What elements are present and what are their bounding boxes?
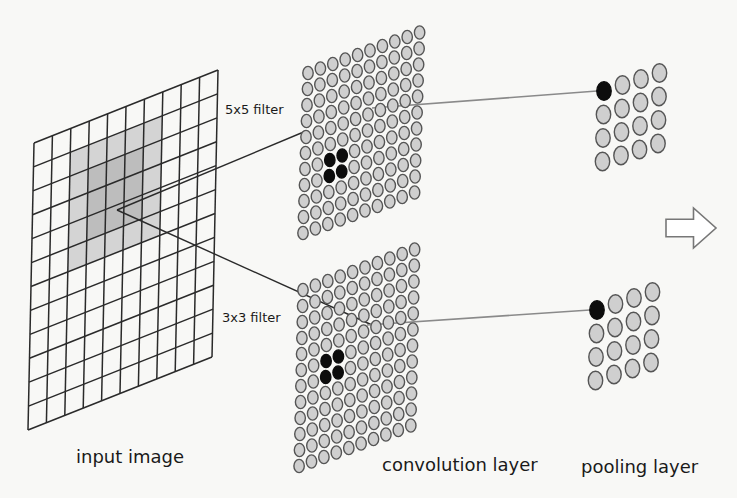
neuron (414, 26, 424, 39)
neuron (394, 375, 404, 388)
neuron (385, 252, 395, 265)
convolution-layer (294, 26, 425, 473)
neuron (296, 379, 306, 392)
neuron (302, 98, 312, 111)
neuron (360, 188, 370, 201)
neuron (297, 299, 307, 312)
neuron (363, 92, 373, 105)
neuron (397, 263, 407, 276)
neuron (328, 57, 338, 70)
neuron (297, 315, 307, 328)
neuron (390, 35, 400, 48)
neuron (589, 324, 603, 342)
neuron (344, 425, 354, 438)
neuron (377, 39, 387, 52)
neuron (323, 217, 333, 230)
neuron (339, 85, 349, 98)
neuron (335, 270, 345, 283)
neuron (347, 265, 357, 278)
neuron (372, 288, 382, 301)
neuron (369, 416, 379, 429)
neuron (326, 121, 336, 134)
neuron (361, 172, 371, 185)
neuron (615, 99, 629, 117)
active-neuron (333, 366, 343, 379)
cnn-diagram-graphic (0, 0, 737, 498)
neuron (398, 158, 408, 171)
conv-block-conv-3x3 (294, 243, 420, 473)
neuron (397, 190, 407, 203)
neuron (321, 338, 331, 351)
neuron (377, 55, 387, 68)
neuron (384, 284, 394, 297)
neuron (634, 70, 648, 88)
neuron (399, 142, 409, 155)
neuron (349, 144, 359, 157)
filter-3x3-label: 3x3 filter (222, 310, 281, 325)
neuron (645, 306, 659, 324)
neuron (346, 329, 356, 342)
neuron (633, 117, 647, 135)
neuron (596, 105, 610, 123)
neuron (374, 135, 384, 148)
neuron (301, 114, 311, 127)
neuron (365, 44, 375, 57)
neuron (306, 455, 316, 468)
neuron (334, 334, 344, 347)
neuron (322, 290, 332, 303)
neuron (396, 295, 406, 308)
neuron (588, 371, 602, 389)
neuron (382, 380, 392, 393)
neuron (311, 206, 321, 219)
neuron (633, 93, 647, 111)
neuron (359, 277, 369, 290)
neuron (320, 386, 330, 399)
neuron (413, 74, 423, 87)
neuron (614, 123, 628, 141)
neuron (372, 256, 382, 269)
neuron (408, 323, 418, 336)
neuron (359, 309, 369, 322)
neuron (406, 387, 416, 400)
neuron (632, 140, 646, 158)
neuron (385, 179, 395, 192)
neuron (387, 131, 397, 144)
neuron (357, 373, 367, 386)
neuron (358, 325, 368, 338)
neuron (344, 409, 354, 422)
neuron (370, 368, 380, 381)
filter-5x5-label: 5x5 filter (225, 102, 284, 117)
neuron (364, 60, 374, 73)
neuron (383, 348, 393, 361)
pooling-layer-caption: pooling layer (581, 456, 698, 477)
neuron (645, 283, 659, 301)
neuron (400, 110, 410, 123)
active-neuron (337, 149, 347, 162)
neuron (386, 163, 396, 176)
neuron (402, 46, 412, 59)
neuron (376, 71, 386, 84)
neuron (300, 146, 310, 159)
neuron (399, 126, 409, 139)
neuron (307, 439, 317, 452)
neuron (297, 331, 307, 344)
neuron (408, 291, 418, 304)
neuron (412, 90, 422, 103)
neuron (312, 158, 322, 171)
neuron (373, 183, 383, 196)
pool-block-pool-top (595, 64, 666, 171)
active-neuron (321, 354, 331, 367)
neuron (338, 117, 348, 130)
neuron (340, 53, 350, 66)
neuron (371, 320, 381, 333)
neuron (401, 62, 411, 75)
neuron (335, 213, 345, 226)
neuron (307, 407, 317, 420)
neuron (313, 142, 323, 155)
neuron (295, 395, 305, 408)
neuron (340, 69, 350, 82)
active-neuron (325, 153, 335, 166)
neuron (394, 407, 404, 420)
neuron (388, 99, 398, 112)
neuron (323, 201, 333, 214)
